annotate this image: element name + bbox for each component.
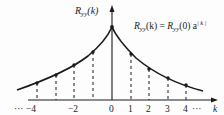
tick-label-m4: ··· −4 bbox=[14, 104, 36, 114]
autocorrelation-curve bbox=[17, 27, 203, 91]
tick-label-m2: −2 bbox=[68, 104, 78, 114]
tick-label-3: 3 bbox=[165, 104, 170, 114]
y-axis-arrow-icon bbox=[110, 5, 115, 12]
x-axis-arrow-icon bbox=[211, 98, 218, 103]
tick-ellipsis: ··· bbox=[192, 104, 202, 114]
tick-label-0: 0 bbox=[109, 104, 114, 114]
x-tick-labels: ··· −4 −2 0 1 2 3 4 ··· k bbox=[14, 104, 218, 114]
formula-label: Ryy(k) = Ryy(0) a| k | bbox=[133, 19, 207, 33]
tick-label-2: 2 bbox=[146, 104, 151, 114]
tick-label-4: 4 bbox=[183, 104, 188, 114]
y-axis-label: Ryy(k) bbox=[74, 5, 99, 18]
autocorrelation-figure: Ryy(k) Ryy(k) = Ryy(0) a| k | ··· −4 −2 … bbox=[0, 0, 224, 115]
chart-canvas: Ryy(k) Ryy(k) = Ryy(0) a| k | ··· −4 −2 … bbox=[0, 0, 224, 115]
tick-label-1: 1 bbox=[128, 104, 133, 114]
x-axis-label: k bbox=[213, 104, 218, 114]
